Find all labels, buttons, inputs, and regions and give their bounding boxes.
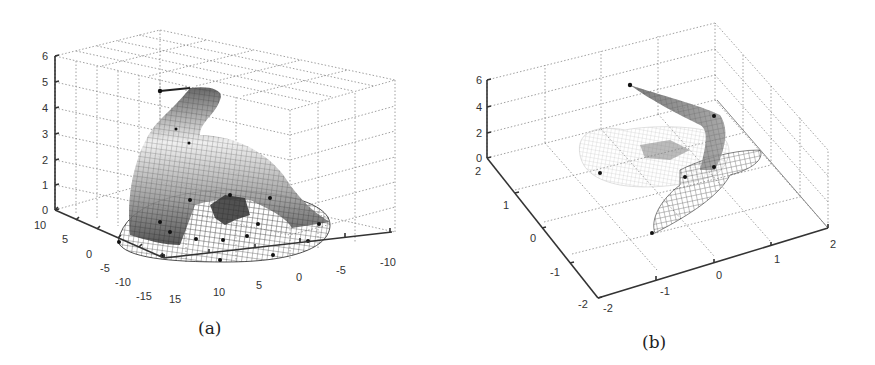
panel-a: 0 1 2 3 4 5 6 10 5 0 -5 -10 -15 15 10 5 … — [34, 30, 396, 338]
panel-a-caption: (a) — [198, 318, 221, 338]
tick-label: 6 — [476, 74, 482, 86]
panel-b-x-tick-labels: -2 -1 0 1 2 — [603, 238, 836, 314]
figure-canvas: 0 1 2 3 4 5 6 10 5 0 -5 -10 -15 15 10 5 … — [0, 0, 875, 365]
tick-label: 0 — [476, 152, 482, 164]
tick-label: 0 — [42, 204, 48, 216]
tick-label: -5 — [336, 264, 346, 276]
tick-label: -2 — [578, 298, 588, 310]
tick-label: 2 — [830, 238, 836, 250]
tick-label: 1 — [42, 179, 48, 191]
tick-label: -15 — [136, 290, 152, 302]
tick-label: 6 — [42, 50, 48, 62]
tick-label: -10 — [115, 276, 131, 288]
tick-label: 4 — [476, 101, 482, 113]
tick-label: -1 — [550, 266, 560, 278]
tick-label: 2 — [475, 165, 481, 177]
panel-a-x-tick-labels: 15 10 5 0 -5 -10 — [169, 256, 396, 305]
tick-label: 5 — [42, 76, 48, 88]
tick-label: -2 — [603, 302, 613, 314]
tick-label: 0 — [296, 271, 302, 283]
tick-label: -10 — [380, 256, 396, 268]
panel-b-axes — [487, 79, 828, 298]
x-axis-b — [598, 228, 828, 298]
panel-b-z-tick-labels: 0 2 4 6 — [476, 74, 482, 164]
tick-label: 10 — [213, 286, 225, 298]
tick-label: 5 — [256, 279, 262, 291]
tick-label: 0 — [716, 269, 722, 281]
tick-label: 5 — [62, 233, 68, 245]
tick-label: 3 — [42, 128, 48, 140]
tick-label: 0 — [530, 232, 536, 244]
panel-a-surface — [118, 87, 330, 262]
tick-label: 1 — [503, 199, 509, 211]
tick-label: 0 — [86, 248, 92, 260]
panel-b: 0 2 4 6 2 1 0 -1 -2 -2 -1 0 1 2 (b) — [475, 23, 836, 352]
tick-label: -5 — [100, 262, 110, 274]
tick-label: -1 — [660, 285, 670, 297]
tick-label: 2 — [42, 154, 48, 166]
tick-label: 1 — [774, 253, 780, 265]
tick-label: 15 — [169, 293, 181, 305]
panel-b-surface — [579, 85, 828, 233]
panel-b-y-tick-labels: 2 1 0 -1 -2 — [475, 165, 588, 310]
panel-a-z-tick-labels: 0 1 2 3 4 5 6 — [42, 50, 48, 216]
tick-label: 10 — [34, 219, 46, 231]
panel-b-caption: (b) — [642, 332, 666, 352]
tick-label: 4 — [42, 102, 48, 114]
tick-label: 2 — [476, 127, 482, 139]
